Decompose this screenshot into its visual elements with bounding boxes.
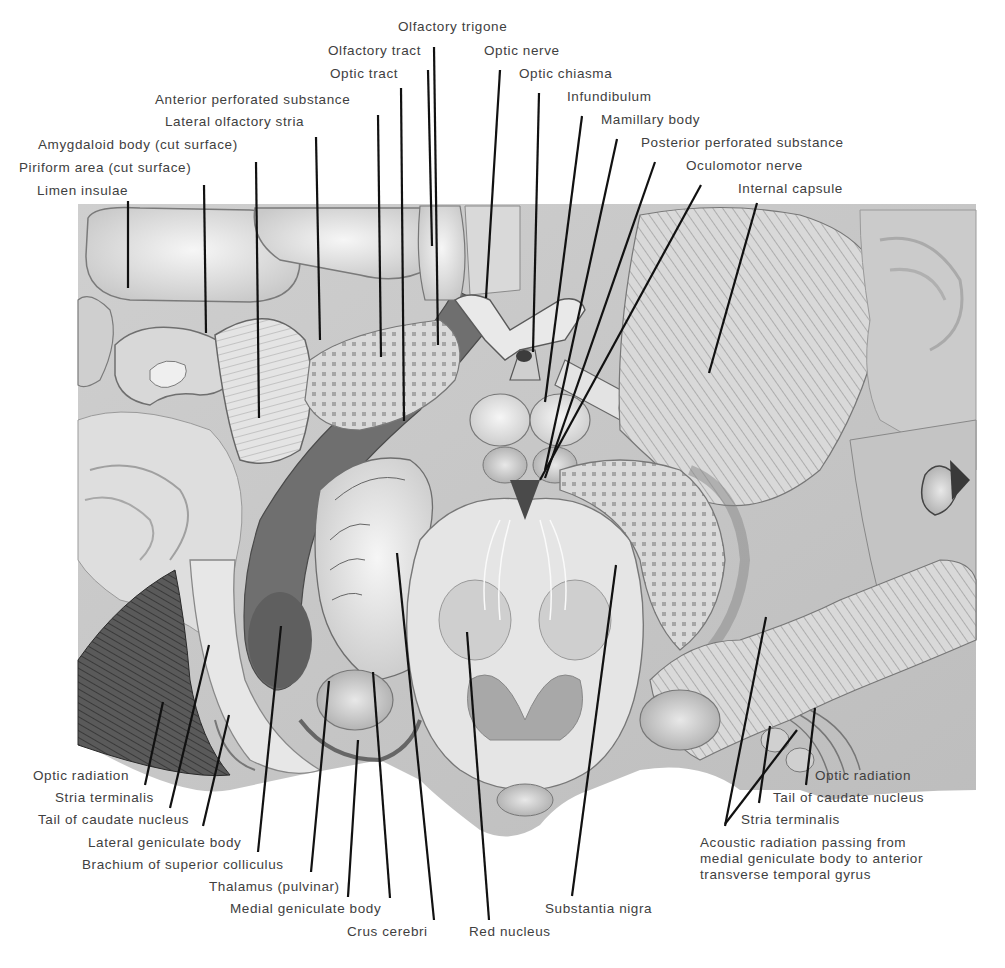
label-olfactory-trigone: Olfactory trigone — [398, 19, 507, 35]
label-lateral-olfactory-stria: Lateral olfactory stria — [165, 114, 304, 130]
label-optic-tract: Optic tract — [330, 66, 398, 82]
anatomical-figure: Olfactory trigoneOlfactory tractOptic ne… — [0, 0, 1005, 968]
label-oculomotor-nerve: Oculomotor nerve — [686, 158, 803, 174]
label-anterior-perforated-substance: Anterior perforated substance — [155, 92, 350, 108]
label-internal-capsule: Internal capsule — [738, 181, 843, 197]
olfactory-tract-column — [418, 206, 520, 300]
label-lateral-geniculate-body: Lateral geniculate body — [88, 835, 241, 851]
label-posterior-perforated-substance: Posterior perforated substance — [641, 135, 844, 151]
label-limen-insulae: Limen insulae — [37, 183, 128, 199]
label-medial-geniculate-body: Medial geniculate body — [230, 901, 381, 917]
label-tail-of-caudate-nucleus: Tail of caudate nucleus — [38, 812, 189, 828]
label-olfactory-tract: Olfactory tract — [328, 43, 421, 59]
label-acoustic-radiation-passing-from: Acoustic radiation passing from medial g… — [700, 835, 923, 883]
label-crus-cerebri: Crus cerebri — [347, 924, 428, 940]
label-amygdaloid-body-cut-surface: Amygdaloid body (cut surface) — [38, 137, 238, 153]
label-infundibulum: Infundibulum — [567, 89, 652, 105]
label-piriform-area-cut-surface: Piriform area (cut surface) — [19, 160, 191, 176]
label-substantia-nigra: Substantia nigra — [545, 901, 652, 917]
label-optic-chiasma: Optic chiasma — [519, 66, 612, 82]
label-thalamus-pulvinar: Thalamus (pulvinar) — [209, 879, 340, 895]
label-mamillary-body: Mamillary body — [601, 112, 700, 128]
label-optic-radiation: Optic radiation — [815, 768, 911, 784]
label-red-nucleus: Red nucleus — [469, 924, 551, 940]
label-stria-terminalis: Stria terminalis — [55, 790, 154, 806]
label-brachium-of-superior-colliculus: Brachium of superior colliculus — [82, 857, 284, 873]
label-optic-radiation: Optic radiation — [33, 768, 129, 784]
label-stria-terminalis: Stria terminalis — [741, 812, 840, 828]
label-optic-nerve: Optic nerve — [484, 43, 560, 59]
label-tail-of-caudate-nucleus: Tail of caudate nucleus — [773, 790, 924, 806]
